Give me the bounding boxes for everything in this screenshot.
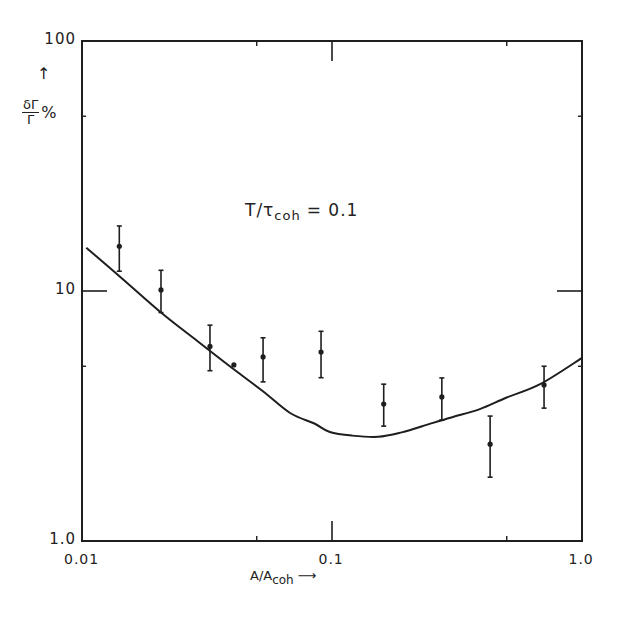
- data-marker: [488, 442, 493, 447]
- x-tick-label: 0.1: [319, 551, 344, 567]
- y-axis-numerator: δΓ: [22, 98, 39, 113]
- y-axis-denominator: Γ: [22, 113, 39, 127]
- data-marker: [117, 244, 122, 249]
- data-marker: [207, 344, 212, 349]
- data-marker: [318, 349, 323, 354]
- data-point: [117, 226, 122, 271]
- data-point: [158, 270, 163, 312]
- data-marker: [158, 287, 163, 292]
- x-axis-label-main: A/A: [250, 568, 272, 583]
- annotation-main: T/τ: [245, 200, 274, 220]
- axis-ticks: [82, 41, 582, 541]
- data-marker: [439, 394, 444, 399]
- x-axis-label: A/Acoh ⟶: [250, 568, 317, 583]
- x-tick-label: 0.01: [64, 551, 99, 567]
- y-axis-fraction: δΓ Γ: [22, 98, 39, 127]
- plot-frame: [82, 41, 582, 541]
- chart-annotation: T/τcoh= 0.1: [245, 200, 358, 220]
- y-tick-label: 100: [16, 30, 76, 48]
- y-tick-label: 1.0: [16, 530, 76, 548]
- data-point: [488, 416, 493, 477]
- data-point: [541, 366, 546, 408]
- data-point: [260, 338, 265, 382]
- data-marker: [231, 362, 236, 367]
- annotation-subscript: coh: [274, 208, 300, 223]
- annotation-value: = 0.1: [307, 200, 359, 220]
- plot-border: [82, 41, 582, 541]
- data-point: [381, 384, 386, 426]
- data-marker: [260, 354, 265, 359]
- data-marker: [541, 382, 546, 387]
- x-axis-label-subscript: coh: [272, 573, 294, 587]
- data-point: [439, 378, 444, 420]
- x-tick-label: 1.0: [569, 551, 594, 567]
- data-point: [207, 325, 212, 371]
- x-axis-arrow-icon: ⟶: [298, 568, 317, 583]
- y-axis-arrow-icon: ↑: [37, 64, 50, 83]
- data-point: [318, 331, 323, 377]
- chart-canvas: [0, 0, 624, 620]
- data-points: [117, 226, 547, 477]
- data-point: [231, 362, 236, 367]
- y-tick-label: 10: [16, 280, 76, 298]
- data-marker: [381, 401, 386, 406]
- y-axis-label: δΓ Γ %: [22, 98, 72, 127]
- y-axis-percent: %: [41, 103, 56, 122]
